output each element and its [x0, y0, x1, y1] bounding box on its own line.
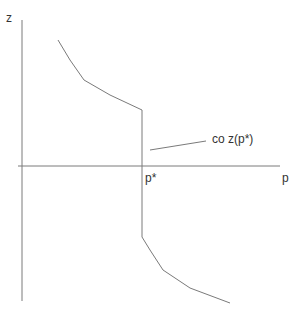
annotation-pointer — [150, 141, 206, 150]
upper-curve — [58, 40, 142, 166]
excess-demand-diagram — [0, 0, 301, 320]
convex-hull-annotation: co z(p*) — [212, 133, 253, 145]
x-axis-label: p — [282, 172, 289, 184]
y-axis-label: z — [6, 12, 12, 24]
p-star-tick-label: p* — [145, 172, 156, 184]
lower-curve — [142, 166, 230, 303]
